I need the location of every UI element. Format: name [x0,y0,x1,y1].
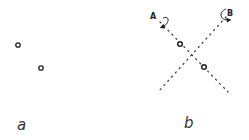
axis-a-line [160,22,228,92]
rotation-arrow-a-icon [162,17,168,27]
figure-canvas: a A B b [0,0,249,140]
panel-label-b: b [184,114,194,132]
point-1 [178,42,183,47]
panel-label-a: a [17,116,26,134]
point-2 [39,66,43,70]
panel-a: a [16,43,43,134]
axis-a-label: A [150,12,157,21]
point-1 [16,43,20,47]
point-2 [202,65,207,70]
panel-b: A B b [150,9,233,132]
axis-b-label: B [227,9,233,18]
